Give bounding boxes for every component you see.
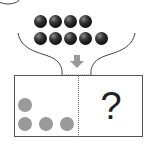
ball xyxy=(95,32,108,45)
ball xyxy=(49,32,62,45)
gray-dot xyxy=(39,117,53,131)
gray-dot xyxy=(18,117,32,131)
ball xyxy=(34,15,47,28)
ball xyxy=(64,15,77,28)
gray-dot xyxy=(18,98,32,112)
down-arrow-icon xyxy=(70,55,84,68)
label-circle-fragment xyxy=(0,0,20,4)
panel-divider xyxy=(78,75,79,137)
ball xyxy=(79,15,92,28)
question-mark: ? xyxy=(96,84,126,128)
ball xyxy=(79,32,92,45)
ball xyxy=(49,15,62,28)
ball xyxy=(64,32,77,45)
gray-dot xyxy=(60,117,74,131)
ball xyxy=(34,32,47,45)
